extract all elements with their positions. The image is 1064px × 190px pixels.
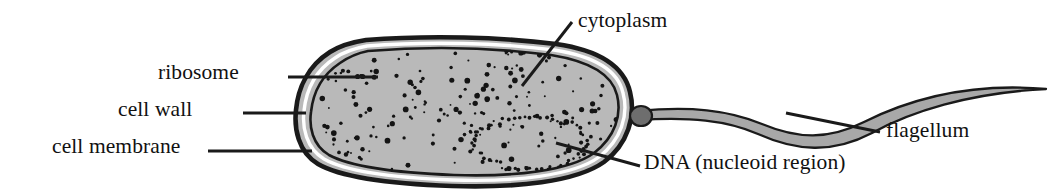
ribosome-dot <box>452 147 456 151</box>
ribosome-dot <box>479 134 481 136</box>
prokaryotic-cell-diagram: ribosome cell wall cell membrane cytopla… <box>0 0 1064 190</box>
ribosome-dot <box>339 122 343 126</box>
ribosome-dot <box>539 132 543 136</box>
ribosome-dot <box>367 107 372 112</box>
ribosome-dot <box>487 63 492 68</box>
ribosome-dot <box>507 54 509 56</box>
nucleoid-dot <box>518 116 522 120</box>
ribosome-dot <box>508 85 512 89</box>
nucleoid-dot <box>470 141 473 144</box>
ribosome-dot <box>483 83 488 88</box>
nucleoid-dot <box>479 152 482 155</box>
label-cytoplasm: cytoplasm <box>578 10 667 32</box>
ribosome-dot <box>406 53 409 56</box>
ribosome-dot <box>423 103 425 105</box>
ribosome-dot <box>515 95 518 98</box>
ribosome-dot <box>470 124 473 127</box>
ribosome-dot <box>416 90 422 96</box>
ribosome-dot <box>509 129 511 131</box>
ribosome-dot <box>320 96 325 101</box>
ribosome-dot <box>412 99 414 101</box>
nucleoid-dot <box>472 148 474 150</box>
ribosome-dot <box>541 139 545 143</box>
ribosome-dot <box>541 81 544 84</box>
cell-membrane-outline <box>310 48 618 175</box>
nucleoid-dot <box>540 167 544 171</box>
nucleoid-dot <box>507 118 511 122</box>
nucleoid-dot <box>559 121 563 125</box>
ribosome-dot <box>563 151 566 154</box>
ribosome-dot <box>545 59 548 62</box>
ribosome-dot <box>458 110 462 114</box>
nucleoid-dot <box>495 159 498 162</box>
ribosome-dot <box>571 116 574 119</box>
ribosome-dot <box>528 104 531 107</box>
ribosome-dot <box>454 162 456 164</box>
ribosome-dot <box>599 94 602 97</box>
nucleoid-dot <box>499 160 502 163</box>
ribosome-dot <box>454 107 459 112</box>
ribosome-dot <box>590 108 595 113</box>
ribosome-dot <box>346 69 350 73</box>
ribosome-dot <box>421 77 425 81</box>
nucleoid-dot <box>524 166 526 168</box>
ribosome-dot <box>335 80 338 83</box>
nucleoid-dot <box>490 160 492 162</box>
nucleoid-dot <box>476 130 479 133</box>
ribosome-dot <box>590 101 595 106</box>
ribosome-dot <box>474 112 476 114</box>
nucleoid-dot <box>528 116 532 120</box>
ribosome-dot <box>449 78 454 83</box>
nucleoid-dot <box>514 167 517 170</box>
ribosome-dot <box>354 137 356 139</box>
ribosome-dot <box>588 121 591 124</box>
ribosome-dot <box>521 74 525 78</box>
nucleoid-dot <box>581 134 584 137</box>
ribosome-dot <box>352 90 356 94</box>
nucleoid-dot <box>582 152 586 156</box>
ribosome-dot <box>423 111 425 113</box>
nucleoid-dot <box>563 123 566 126</box>
ribosome-dot <box>360 147 364 151</box>
ribosome-dot <box>469 103 471 105</box>
ribosome-dot <box>519 67 524 72</box>
ribosome-dot <box>331 130 337 136</box>
nucleoid-dot <box>480 127 483 130</box>
nucleoid-dot <box>535 168 539 172</box>
ribosome-dot <box>406 163 411 168</box>
ribosome-dot <box>432 133 435 136</box>
ribosome-dot <box>450 104 452 106</box>
nucleoid-dot <box>474 134 478 138</box>
ribosome-dot <box>521 125 525 129</box>
ribosome-dot <box>350 152 352 154</box>
ribosome-dot <box>322 124 326 128</box>
ribosome-dot <box>337 151 341 155</box>
ribosome-dot <box>346 140 349 143</box>
ribosome-dot <box>370 70 373 73</box>
ribosome-dot <box>480 111 483 114</box>
ribosome-dot <box>507 141 509 143</box>
ribosome-dot <box>547 56 551 60</box>
ribosome-dot <box>431 142 435 146</box>
nucleoid-dot <box>538 116 542 120</box>
ribosome-dot <box>398 58 401 61</box>
ribosome-dot <box>512 78 518 84</box>
nucleoid-dot <box>570 120 574 124</box>
ribosome-dot <box>332 143 334 145</box>
ribosome-dot <box>414 106 417 109</box>
nucleoid-dot <box>528 167 531 170</box>
ribosome-dot <box>392 115 395 118</box>
ribosome-dot <box>494 66 496 68</box>
ribosome-dot <box>403 93 407 97</box>
ribosome-dot <box>491 88 495 92</box>
nucleoid-dot <box>501 117 504 120</box>
ribosome-dot <box>463 122 466 125</box>
ribosome-dot <box>610 125 612 127</box>
ribosome-dot <box>544 95 546 97</box>
nucleoid-dot <box>482 156 486 160</box>
ribosome-dot <box>375 136 378 139</box>
ribosome-dot <box>446 114 449 117</box>
label-flagellum: flagellum <box>886 120 969 142</box>
cell-diagram-canvas <box>0 0 1064 190</box>
ribosome-dot <box>579 107 584 112</box>
